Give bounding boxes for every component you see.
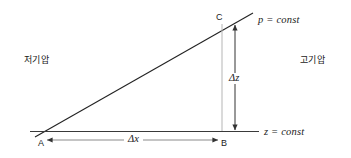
label-delta-z: Δz: [227, 73, 241, 84]
label-point-a-text: A: [38, 138, 44, 148]
label-height-surface-text: z = const: [264, 126, 304, 137]
label-pressure-surface: p = const: [258, 15, 300, 26]
label-delta-z-text: Δz: [229, 72, 239, 83]
label-point-c-text: C: [216, 12, 223, 22]
label-low-pressure-text: 저기압: [24, 55, 49, 65]
label-high-pressure-text: 고기압: [300, 55, 325, 65]
label-point-c: C: [216, 13, 223, 22]
label-point-b: B: [221, 139, 227, 148]
label-pressure-surface-text: p = const: [258, 14, 300, 25]
diagram-canvas: p = const z = const 저기압 고기압 Δz Δx A B C: [0, 0, 351, 158]
label-point-a: A: [38, 139, 44, 148]
isobaric-surface-line: [35, 13, 253, 137]
label-delta-x: Δx: [126, 134, 141, 145]
label-height-surface: z = const: [264, 127, 304, 138]
label-point-b-text: B: [221, 138, 227, 148]
label-low-pressure: 저기압: [24, 56, 49, 65]
label-delta-x-text: Δx: [128, 133, 139, 144]
label-high-pressure: 고기압: [300, 56, 325, 65]
